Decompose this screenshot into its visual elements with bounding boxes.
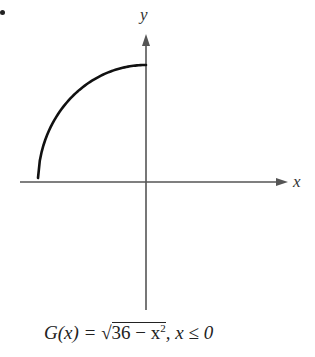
caption-radicand: 36 − x2 <box>112 322 166 343</box>
x-axis-arrow-icon <box>276 178 288 186</box>
caption-radical-sign: √ <box>101 322 111 343</box>
x-axis-label: x <box>293 172 301 192</box>
graph-area <box>0 0 315 320</box>
function-curve <box>38 65 146 178</box>
caption-lhs: G(x) = <box>44 322 101 343</box>
y-axis-arrow-icon <box>142 34 150 46</box>
caption-domain: , x ≤ 0 <box>166 322 213 343</box>
y-axis-label: y <box>140 5 148 25</box>
function-caption: G(x) = √36 − x2, x ≤ 0 <box>44 322 213 344</box>
